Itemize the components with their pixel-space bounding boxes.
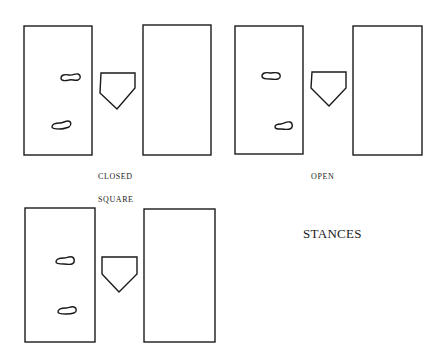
batters-box-left: [25, 208, 95, 342]
square-label: SQUARE: [98, 195, 134, 204]
back-foot-icon: [52, 121, 71, 129]
front-foot-icon: [262, 73, 280, 80]
open-label: OPEN: [311, 172, 334, 181]
square-stance-diagram: [25, 208, 215, 342]
home-plate: [311, 72, 346, 106]
batters-box-right: [144, 209, 215, 342]
batters-box-right: [143, 25, 211, 155]
batters-box-left: [235, 26, 303, 154]
front-foot-icon: [61, 74, 80, 81]
back-foot-icon: [275, 122, 292, 130]
open-stance-diagram: [235, 26, 422, 155]
back-foot-icon: [58, 307, 76, 314]
batters-box-left: [24, 26, 92, 155]
home-plate: [102, 257, 137, 292]
diagram-title: STANCES: [303, 226, 362, 242]
closed-stance-diagram: [24, 25, 211, 155]
stances-diagram: [0, 0, 433, 358]
batters-box-right: [353, 26, 422, 155]
front-foot-icon: [56, 257, 74, 265]
home-plate: [100, 73, 135, 109]
closed-label: CLOSED: [98, 172, 133, 181]
